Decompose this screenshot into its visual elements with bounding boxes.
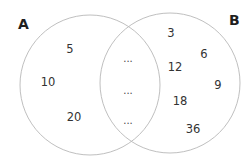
set-a-element: 5 (66, 44, 73, 56)
venn-circles (0, 0, 249, 161)
set-b-element: 12 (168, 62, 183, 74)
intersection-element: ... (123, 116, 133, 126)
set-b-element: 36 (186, 124, 201, 136)
set-b-element: 18 (173, 96, 188, 108)
intersection-element: ... (123, 54, 133, 64)
set-b-label: B (229, 13, 240, 27)
intersection-element: ... (123, 86, 133, 96)
set-a-element: 10 (41, 77, 56, 89)
set-b-element: 3 (167, 28, 174, 40)
set-b-element: 6 (200, 49, 207, 61)
set-b-element: 9 (214, 80, 221, 92)
set-a-element: 20 (67, 112, 82, 124)
set-a-label: A (18, 17, 29, 31)
venn-diagram: A B 5 10 20 ... ... ... 3 6 12 9 18 36 (0, 0, 249, 161)
